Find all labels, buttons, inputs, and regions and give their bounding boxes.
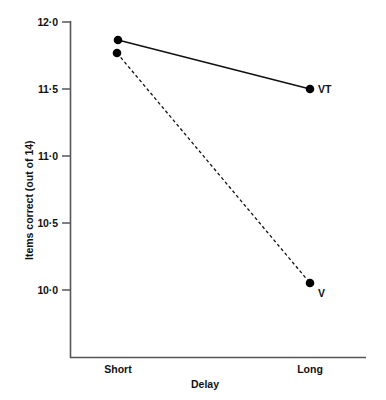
y-tick-label-10-5: 10·5 xyxy=(37,218,58,229)
x-category-label-long: Long xyxy=(282,364,338,375)
chart-canvas xyxy=(0,0,386,400)
series-vt-line xyxy=(118,40,310,89)
x-category-label-short: Short xyxy=(88,364,148,375)
x-axis-title: Delay xyxy=(175,379,235,390)
y-axis-title: Items correct (out of 14) xyxy=(24,140,35,260)
series-label-v: V xyxy=(318,288,325,299)
y-tick-label-12-0: 12·0 xyxy=(37,17,58,28)
series-label-vt: VT xyxy=(318,84,331,95)
chart-figure: 12·0 11·5 11·0 10·5 10·0 Items correct (… xyxy=(0,0,386,400)
series-vt-point-short xyxy=(114,36,123,45)
y-tick-label-11-0: 11·0 xyxy=(38,151,58,162)
series-vt-point-long xyxy=(306,85,315,94)
y-tick-label-11-5: 11·5 xyxy=(38,84,58,95)
y-tick-label-10-0: 10·0 xyxy=(37,285,58,296)
series-v-point-long xyxy=(306,279,315,288)
series-v-point-short xyxy=(113,49,122,58)
series-v-line xyxy=(117,53,310,283)
